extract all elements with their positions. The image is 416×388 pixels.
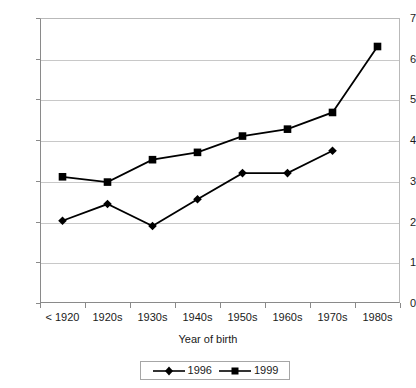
- x-tick-mark: [130, 303, 131, 308]
- x-tick-label: 1980s: [348, 311, 408, 323]
- gridline-3: [41, 182, 399, 183]
- y-tick-label: 1: [382, 256, 416, 268]
- legend-item-1996[interactable]: 1996: [152, 365, 212, 377]
- y-tick-mark: [36, 59, 40, 60]
- y-tick-mark: [36, 222, 40, 223]
- y-tick-mark: [36, 181, 40, 182]
- x-tick-mark: [220, 303, 221, 308]
- x-tick-mark: [175, 303, 176, 308]
- legend-item-1999[interactable]: 1999: [218, 365, 278, 377]
- diamond-marker-icon: [152, 365, 186, 377]
- gridline-1: [41, 263, 399, 264]
- x-tick-mark: [400, 303, 401, 308]
- legend: 1996 1999: [140, 361, 290, 380]
- gridline-2: [41, 223, 399, 224]
- x-tick-mark: [265, 303, 266, 308]
- x-tick-mark: [40, 303, 41, 308]
- y-tick-label: 3: [382, 175, 416, 187]
- legend-label-1999: 1999: [254, 365, 278, 376]
- y-tick-label: 5: [382, 93, 416, 105]
- legend-label-1996: 1996: [188, 365, 212, 376]
- y-tick-mark: [36, 262, 40, 263]
- plot-area: [40, 18, 400, 303]
- y-tick-label: 4: [382, 134, 416, 146]
- x-axis-title: Year of birth: [0, 333, 416, 345]
- y-tick-mark: [36, 18, 40, 19]
- gridline-5: [41, 100, 399, 101]
- y-tick-label: 0: [382, 297, 416, 309]
- x-tick-mark: [310, 303, 311, 308]
- y-tick-label: 7: [382, 12, 416, 24]
- y-tick-label: 2: [382, 216, 416, 228]
- y-tick-mark: [36, 99, 40, 100]
- square-marker-icon: [218, 365, 252, 377]
- line-chart: 7 6 5 4 3 2 1 0 < 1920 1920s 1930s 1940s…: [0, 0, 416, 388]
- x-tick-mark: [85, 303, 86, 308]
- gridline-6: [41, 60, 399, 61]
- y-tick-mark: [36, 140, 40, 141]
- x-tick-mark: [355, 303, 356, 308]
- gridline-4: [41, 141, 399, 142]
- y-tick-label: 6: [382, 53, 416, 65]
